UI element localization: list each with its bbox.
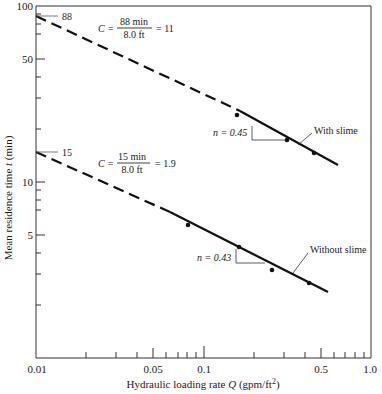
- without-slime-point: [186, 223, 191, 228]
- svg-text:15 min: 15 min: [118, 151, 146, 162]
- y-ticks: [36, 14, 45, 305]
- x-ticks: [86, 346, 364, 358]
- x-tick-labels: 0.01 0.05 0.1 0.5 1.0: [27, 363, 377, 375]
- c-equation-with-slime: C = 88 min 8.0 ft = 11: [98, 16, 174, 40]
- y-tick-50: 50: [22, 53, 34, 65]
- series-label-without-slime: Without slime: [310, 244, 367, 255]
- with-slime-point: [312, 151, 317, 156]
- svg-text:= 11: = 11: [156, 23, 174, 34]
- with-slime-point: [235, 113, 240, 118]
- y-tick-100: 100: [17, 0, 34, 12]
- x-tick-0.1: 0.1: [197, 363, 211, 375]
- intercept-88-label: 88: [62, 11, 72, 22]
- series-with-slime: [36, 16, 338, 165]
- svg-text:C =: C =: [98, 158, 114, 169]
- y-tick-labels: 100 50 10 5: [17, 0, 34, 241]
- x-tick-0.5: 0.5: [314, 363, 328, 375]
- without-slime-point: [307, 281, 312, 286]
- svg-text:88 min: 88 min: [120, 16, 148, 27]
- intercept-15-label: 15: [62, 147, 72, 158]
- series-label-with-slime: With slime: [314, 125, 358, 136]
- slope-bracket-without-slime: [236, 249, 265, 263]
- without-slime-point: [270, 268, 275, 273]
- y-axis-title: Mean residence time t (min): [2, 135, 15, 260]
- slope-label-without-slime: n = 0.43: [197, 252, 231, 263]
- intercept-annotations: [36, 16, 58, 152]
- series-without-slime: [36, 152, 328, 292]
- c-equation-without-slime: C = 15 min 8.0 ft = 1.9: [98, 151, 176, 175]
- y-tick-5: 5: [28, 229, 34, 241]
- x-axis-title: Hydraulic loading rate Q (gpm/ft2): [126, 377, 279, 391]
- y-tick-10: 10: [22, 176, 34, 188]
- with-slime-point: [285, 138, 290, 143]
- axes: [36, 6, 371, 358]
- svg-text:8.0 ft: 8.0 ft: [123, 29, 144, 40]
- x-tick-1.0: 1.0: [363, 363, 377, 375]
- without-slime-point: [237, 245, 242, 250]
- svg-text:= 1.9: = 1.9: [155, 158, 176, 169]
- svg-text:8.0 ft: 8.0 ft: [121, 164, 142, 175]
- svg-text:C =: C =: [98, 23, 114, 34]
- slope-label-with-slime: n = 0.45: [213, 127, 247, 138]
- with-slime-fit-line: [240, 111, 338, 165]
- x-tick-0.05: 0.05: [143, 363, 163, 375]
- without-slime-fit-line: [170, 212, 328, 292]
- chart: 100 50 10 5 0.01 0.05 0.1 0.5 1.0 Hydrau…: [0, 0, 382, 394]
- x-tick-0.01: 0.01: [27, 363, 46, 375]
